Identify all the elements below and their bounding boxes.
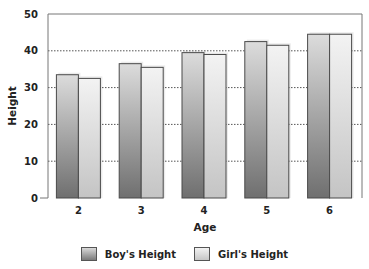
- x-axis-ticks: 23456: [75, 205, 333, 216]
- bar-boy-age-6: [308, 34, 330, 198]
- legend: Boy's Height Girl's Height: [0, 244, 369, 264]
- bar-girl-age-3: [141, 67, 163, 198]
- legend-label-girl: Girl's Height: [218, 249, 288, 260]
- y-tick-label: 50: [24, 9, 38, 20]
- x-tick-label: 6: [326, 205, 333, 216]
- bar-chart: 01020304050 23456 Height Age: [0, 0, 369, 269]
- y-axis-title: Height: [6, 86, 18, 126]
- bar-boy-age-4: [182, 53, 204, 198]
- y-tick-label: 40: [24, 45, 38, 56]
- y-tick-label: 20: [24, 119, 38, 130]
- y-tick-label: 0: [31, 193, 38, 204]
- bar-boy-age-2: [56, 75, 78, 198]
- y-axis-ticks: 01020304050: [24, 9, 38, 204]
- legend-item-girl: Girl's Height: [194, 247, 288, 261]
- bar-girl-age-5: [267, 45, 289, 198]
- x-axis-title: Age: [194, 221, 217, 233]
- bars: [56, 32, 353, 198]
- y-tick-label: 30: [24, 82, 38, 93]
- x-tick-label: 4: [201, 205, 208, 216]
- x-tick-label: 5: [263, 205, 270, 216]
- legend-label-boy: Boy's Height: [105, 249, 176, 260]
- legend-item-boy: Boy's Height: [81, 247, 176, 261]
- boy-swatch-icon: [81, 247, 97, 261]
- x-tick-label: 3: [138, 205, 145, 216]
- bar-boy-age-5: [245, 42, 267, 198]
- bar-girl-age-6: [330, 34, 352, 198]
- y-tick-label: 10: [24, 156, 38, 167]
- bar-girl-age-4: [204, 54, 226, 198]
- bar-boy-age-3: [119, 64, 141, 198]
- girl-swatch-icon: [194, 247, 210, 261]
- x-tick-label: 2: [75, 205, 82, 216]
- bar-girl-age-2: [78, 78, 100, 198]
